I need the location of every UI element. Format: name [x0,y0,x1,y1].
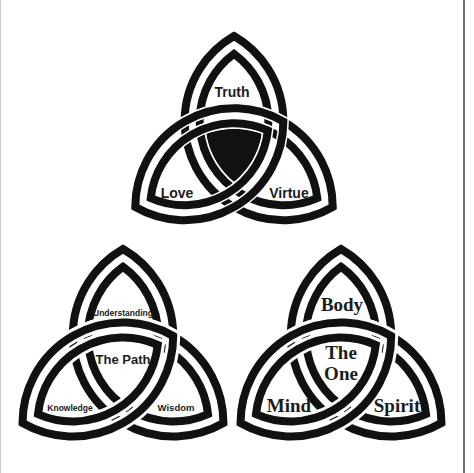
label-wisdom: Wisdom [158,403,195,413]
label-the: The [325,343,357,362]
label-one: One [324,364,358,383]
label-truth: Truth [215,85,250,99]
label-the-path: The Path [96,353,151,366]
label-body: Body [321,295,363,314]
label-mind: Mind [267,396,311,415]
label-understanding: Understanding [93,309,153,318]
label-spirit: Spirit [374,396,420,415]
triquetra-truth-love-virtue [111,36,358,291]
label-love: Love [161,186,194,200]
label-virtue: Virtue [269,186,308,200]
label-knowledge: Knowledge [47,404,92,413]
